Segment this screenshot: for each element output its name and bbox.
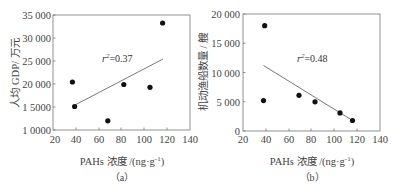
data-point <box>70 79 75 84</box>
plot-area-a <box>53 15 190 130</box>
x-tick-label: 100 <box>326 134 342 145</box>
x-tick-label: 40 <box>261 134 272 145</box>
x-tick-label: 120 <box>349 134 365 145</box>
x-tick-labels-a: 20 40 60 80 100 120 140 <box>50 134 198 145</box>
chart-b: 0 5 000 10 000 15 000 20 000 20 40 60 80… <box>197 9 388 183</box>
x-tick-label: 40 <box>71 134 82 145</box>
x-tick-label: 140 <box>182 134 198 145</box>
data-point <box>337 110 342 115</box>
x-tick-label: 20 <box>50 134 61 145</box>
panel-caption-a: （a） <box>110 172 134 183</box>
y-tick-labels-b: 0 5 000 10 000 15 000 20 000 <box>211 9 240 137</box>
y-tick-label: 10 000 <box>211 68 240 79</box>
data-point <box>350 118 355 123</box>
y-tick-label: 1 0000 <box>22 125 51 136</box>
plot-area-b <box>243 14 380 131</box>
y-tick-label: 30 000 <box>22 33 51 44</box>
data-point <box>312 99 317 104</box>
r-squared-annotation-b: r2=0.48 <box>297 52 328 64</box>
x-tick-labels-b: 20 40 60 80 100 120 140 <box>238 134 388 145</box>
x-axis-label-b: PAHs 浓度 /(ng·g-1) <box>270 155 355 168</box>
x-tick-label: 100 <box>136 134 152 145</box>
y-tick-label: 15 000 <box>211 38 240 49</box>
y-tick-label: 35 000 <box>22 10 51 21</box>
data-point <box>160 20 165 25</box>
x-tick-label: 80 <box>116 134 127 145</box>
x-tick-label: 60 <box>284 134 295 145</box>
data-point <box>296 93 301 98</box>
panel-caption-b: （b） <box>300 172 325 183</box>
figure: 1 0000 1 5000 20 000 25 000 30 000 35 00… <box>0 0 394 186</box>
data-point <box>105 118 110 123</box>
y-tick-label: 25 000 <box>22 56 51 67</box>
x-tick-label: 140 <box>372 134 388 145</box>
x-tick-label: 80 <box>306 134 317 145</box>
data-points-b <box>261 23 355 123</box>
r-squared-annotation-a: r2=0.37 <box>102 52 133 64</box>
y-tick-label: 20 000 <box>211 9 240 20</box>
x-tick-label: 60 <box>94 134 105 145</box>
data-point <box>121 82 126 87</box>
data-point <box>147 85 152 90</box>
data-point <box>72 104 77 109</box>
data-point <box>262 23 267 28</box>
y-axis-label-b: 机动渔船数量 / 艘 <box>197 32 209 111</box>
data-point <box>261 98 266 103</box>
x-axis-label-a: PAHs 浓度 /(ng·g-1) <box>80 155 165 168</box>
x-tick-label: 20 <box>238 134 249 145</box>
y-tick-label: 1 5000 <box>22 102 51 113</box>
y-tick-label: 5 000 <box>216 97 240 108</box>
y-tick-label: 20 000 <box>22 79 51 90</box>
y-tick-labels-a: 1 0000 1 5000 20 000 25 000 30 000 35 00… <box>22 10 51 136</box>
data-points-a <box>70 20 165 123</box>
y-axis-label-a: 人均 GDP/ 万元 <box>10 37 21 107</box>
x-tick-label: 120 <box>159 134 175 145</box>
trendline-a <box>75 59 163 105</box>
chart-a: 1 0000 1 5000 20 000 25 000 30 000 35 00… <box>10 10 198 183</box>
